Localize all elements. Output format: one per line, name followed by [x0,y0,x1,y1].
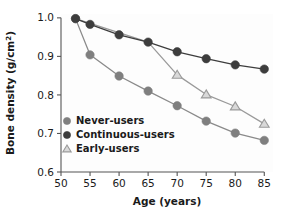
data-point-marker [86,51,94,59]
y-axis-title-tail: ) [4,31,16,36]
x-axis-tick-label: 85 [258,177,271,189]
x-axis-title: Age (years) [133,195,202,207]
legend-item-never-users[interactable]: Never-users [63,115,144,126]
y-axis-tick-label: 0.6 [37,166,54,178]
legend-item-label: Never-users [76,115,144,126]
data-point-marker [202,117,210,125]
x-axis-tick-label: 65 [141,177,154,189]
y-axis-title-group: Bone density (g∕cm2) [4,31,16,155]
y-axis-tick-label: 0.8 [37,89,54,101]
y-axis-tick-label: 1.0 [37,11,54,23]
x-axis-tick-label: 80 [229,177,242,189]
data-point-marker [63,131,70,138]
data-point-marker [231,129,239,137]
data-point-marker [144,87,152,95]
chart-container: 0.60.70.80.91.0 5055606570758085 Never-u… [0,0,291,216]
data-point-marker [202,55,210,63]
legend-item-label: Early-users [76,143,139,154]
data-point-marker [71,14,79,22]
data-point-marker [231,61,239,69]
x-axis-tick-label: 50 [54,177,67,189]
y-axis-title-main: Bone density (g∕cm [4,41,16,155]
data-point-marker [86,20,94,28]
data-point-marker [173,48,181,56]
data-point-marker [115,72,123,80]
y-axis-title: Bone density (g∕cm2) [4,31,16,155]
y-axis-tick-label: 0.9 [37,50,54,62]
data-point-marker [173,102,181,110]
x-axis-tick-label: 60 [112,177,125,189]
x-axis-tick-label: 70 [170,177,183,189]
data-point-marker [115,31,123,39]
data-point-marker [260,65,268,73]
y-axis-tick-label: 0.7 [37,127,54,139]
bone-density-line-chart: 0.60.70.80.91.0 5055606570758085 Never-u… [0,0,291,216]
data-point-marker [260,136,268,144]
x-axis-tick-label: 55 [83,177,96,189]
x-axis-tick-label: 75 [200,177,213,189]
data-point-marker [63,117,70,124]
legend-item-continuous-users[interactable]: Continuous-users [63,129,174,140]
legend-item-label: Continuous-users [76,129,175,140]
data-point-marker [144,38,152,46]
